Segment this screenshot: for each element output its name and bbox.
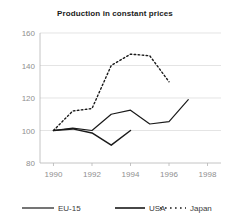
x-tick-label-1990: 1990 [45,170,63,179]
x-axis-tick-labels: 19901992199419961998 [45,170,217,179]
y-tick-label-140: 140 [22,62,36,71]
series-lines-group [53,54,188,145]
x-tick-label-1992: 1992 [83,170,101,179]
y-tick-label-80: 80 [26,159,35,168]
legend-label-japan: Japan [190,204,212,213]
axes-group [40,33,221,166]
x-tick-label-1994: 1994 [122,170,140,179]
chart-legend: EU-15USAJapan [22,204,212,213]
y-axis-tick-labels: 80100120140160 [22,29,36,168]
series-line-usa [53,129,130,145]
chart-container: Production in constant prices 8010012014… [0,0,230,224]
x-tick-label-1996: 1996 [160,170,178,179]
y-tick-label-120: 120 [22,94,36,103]
legend-label-usa: USA [149,204,166,213]
x-tick-label-1998: 1998 [199,170,217,179]
y-tick-label-160: 160 [22,29,36,38]
chart-plot: 80100120140160 19901992199419961998 EU-1… [0,0,230,224]
legend-label-eu-15: EU-15 [58,204,81,213]
series-line-eu-15 [53,100,188,131]
y-tick-label-100: 100 [22,127,36,136]
